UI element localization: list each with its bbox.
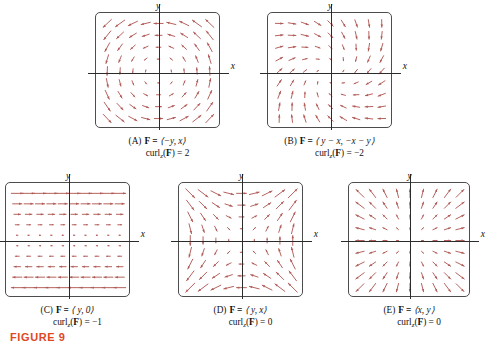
field-expression: ⟨ y − x, −x − y⟩	[315, 136, 375, 146]
panel-caption-field: (B)F = ⟨ y − x, −x − y⟩	[267, 136, 392, 148]
y-axis	[242, 174, 243, 299]
y-axis	[159, 4, 160, 130]
curl-value-expression: (F) = 0	[246, 317, 272, 327]
panel-tag: (B)	[284, 136, 296, 146]
plot-frame: xy	[95, 12, 220, 128]
y-axis-label: y	[239, 172, 243, 182]
x-axis-label: x	[481, 230, 485, 240]
panel-caption-field: (C)F = ⟨ y, 0⟩	[5, 305, 130, 317]
panel-caption-curl: curlz(F) = −1	[5, 317, 140, 332]
panel-b: xy(B)F = ⟨ y − x, −x − y⟩curlz(F) = −2	[267, 12, 392, 128]
panel-caption-curl: curlz(F) = 0	[348, 317, 480, 332]
plot-frame: xy	[267, 12, 392, 128]
figure-number: FIGURE 9	[10, 331, 66, 343]
panel-caption-field: (A)F = ⟨−y, x⟩	[95, 136, 220, 148]
panel-caption-curl: curlz(F) = 0	[178, 317, 313, 332]
plot-frame: xy	[5, 182, 130, 297]
y-axis	[410, 174, 411, 299]
field-symbol: F =	[53, 305, 69, 315]
panel-tag: (E)	[383, 305, 395, 315]
x-axis-label: x	[231, 62, 235, 72]
field-expression: ⟨x, y⟩	[414, 305, 435, 315]
y-axis-label: y	[328, 2, 332, 12]
panel-tag: (C)	[41, 305, 53, 315]
curl-value-expression: (F) = −2	[332, 148, 364, 158]
panel-a: xy(A)F = ⟨−y, x⟩curlz(F) = 2	[95, 12, 220, 128]
curl-label: curl	[397, 317, 411, 327]
field-expression: ⟨ y, 0⟩	[71, 305, 94, 315]
panel-caption-field: (E)F = ⟨x, y⟩	[348, 305, 470, 317]
x-axis-label: x	[403, 62, 407, 72]
curl-label: curl	[53, 317, 67, 327]
plot-frame: xy	[178, 182, 303, 297]
y-axis	[69, 174, 70, 299]
curl-label: curl	[229, 317, 243, 327]
panel-c: xy(C)F = ⟨ y, 0⟩curlz(F) = −1	[5, 182, 130, 297]
curl-value-expression: (F) = 0	[414, 317, 440, 327]
field-symbol: F =	[226, 305, 242, 315]
panel-d: xy(D)F = ⟨ y, x⟩curlz(F) = 0	[178, 182, 303, 297]
field-expression: ⟨ y, x⟩	[245, 305, 268, 315]
panel-caption-curl: curlz(F) = 2	[95, 148, 230, 163]
x-axis-label: x	[141, 230, 145, 240]
panel-caption-field: (D)F = ⟨ y, x⟩	[178, 305, 303, 317]
field-symbol: F =	[395, 305, 411, 315]
field-symbol: F =	[141, 136, 157, 146]
panel-tag: (A)	[129, 136, 142, 146]
panel-e: xy(E)F = ⟨x, y⟩curlz(F) = 0	[348, 182, 470, 297]
y-axis	[331, 4, 332, 130]
curl-label: curl	[146, 148, 160, 158]
curl-label: curl	[315, 148, 329, 158]
y-axis-label: y	[66, 172, 70, 182]
y-axis-label: y	[156, 2, 160, 12]
x-axis-label: x	[314, 230, 318, 240]
y-axis-label: y	[408, 172, 412, 182]
field-expression: ⟨−y, x⟩	[160, 136, 187, 146]
curl-value-expression: (F) = 2	[163, 148, 189, 158]
panel-caption-curl: curlz(F) = −2	[267, 148, 402, 163]
curl-value-expression: (F) = −1	[70, 317, 102, 327]
panel-tag: (D)	[214, 305, 227, 315]
field-symbol: F =	[297, 136, 313, 146]
plot-frame: xy	[348, 182, 470, 297]
